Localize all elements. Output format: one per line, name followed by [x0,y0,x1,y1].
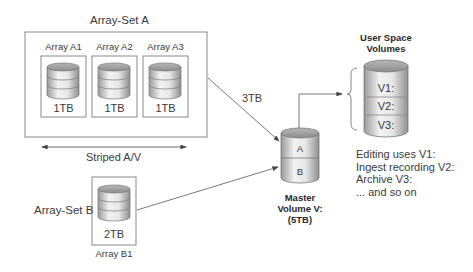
volume-v2: V2: [364,100,408,112]
arrow-set-b-to-master [137,167,278,210]
striping-label: Striped A/V [86,151,141,163]
array-a3-label: Array A3 [143,41,188,52]
volume-v3: V3: [364,119,408,131]
array-set-a-title: Array-Set A [90,14,149,26]
array-a1-capacity: 1TB [41,102,86,114]
array-a2-label: Array A2 [92,41,137,52]
array-a2-capacity: 1TB [92,102,137,114]
disk-stack-a1 [47,63,79,99]
disk-stack-b1 [98,185,130,221]
master-segment-a: A [281,143,319,154]
arrow-master-to-user-space [299,94,342,128]
array-a3-capacity: 1TB [143,102,188,114]
user-space-notes: Editing uses V1: Ingest recording V2: Ar… [356,148,454,198]
disk-stack-a3 [149,63,181,99]
brace [347,68,357,130]
array-b1-label: Array B1 [88,248,140,259]
master-segment-b: B [281,166,319,177]
arrow-set-a-to-master [208,78,279,141]
array-a1-label: Array A1 [41,41,86,52]
user-space-title: User Space Volumes [356,32,416,54]
array-set-b-title: Array-Set B [34,204,93,216]
disk-stack-a2 [98,63,130,99]
volume-v1: V1: [364,82,408,94]
master-volume-caption: Master Volume V: (5TB) [270,192,330,225]
link-capacity-label: 3TB [242,92,262,104]
array-b1-capacity: 2TB [92,228,136,240]
